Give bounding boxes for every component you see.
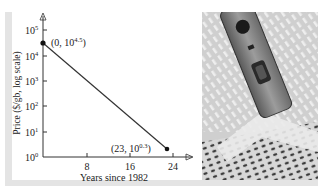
svg-text:103: 103: [25, 75, 38, 87]
svg-text:104: 104: [25, 50, 39, 62]
svg-text:102: 102: [25, 100, 38, 112]
annotation-end: (23, 100.3): [111, 142, 151, 155]
log-price-chart: 105 104 103 102 101 100 8 16 24 Years si…: [0, 0, 200, 196]
svg-text:105: 105: [25, 24, 38, 36]
y-tick-labels: 105 104 103 102 101 100: [25, 24, 39, 163]
price-trend-line: [43, 43, 167, 149]
x-tick-labels: 8 16 24: [85, 161, 179, 172]
annotation-start: (0, 104.5): [51, 36, 86, 49]
x-axis-title: Years since 1982: [80, 172, 148, 183]
storage-device-photo: [202, 12, 318, 180]
svg-text:8: 8: [85, 161, 90, 172]
svg-text:24: 24: [168, 161, 178, 172]
data-point-end: [165, 147, 170, 152]
svg-text:100: 100: [25, 151, 38, 163]
device-illustration: [202, 12, 318, 180]
data-point-start: [40, 40, 45, 45]
svg-text:16: 16: [125, 161, 135, 172]
svg-text:101: 101: [25, 126, 38, 138]
y-axis-title: Price ($/gb, log scale): [12, 51, 23, 134]
